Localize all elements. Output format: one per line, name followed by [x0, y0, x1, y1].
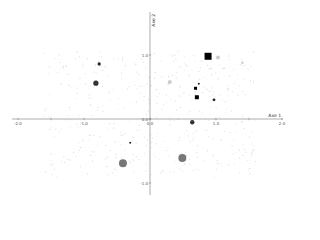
background-point — [79, 78, 80, 79]
medium-square-marker — [195, 95, 199, 99]
background-point — [210, 91, 211, 92]
background-point — [170, 54, 171, 55]
background-point — [163, 141, 164, 142]
background-point — [56, 177, 57, 178]
background-point — [52, 174, 53, 175]
background-point — [232, 91, 233, 92]
background-point — [152, 138, 153, 139]
background-point — [229, 60, 230, 61]
background-point — [115, 157, 116, 158]
background-point — [252, 153, 253, 154]
background-point — [136, 143, 137, 144]
background-point — [99, 136, 100, 137]
background-point — [228, 95, 229, 96]
background-point — [242, 116, 243, 117]
background-point — [244, 65, 245, 66]
background-point — [139, 159, 140, 160]
background-point — [184, 134, 185, 135]
background-point — [210, 114, 211, 115]
background-point — [233, 139, 234, 140]
background-point — [121, 158, 122, 159]
background-point — [92, 160, 93, 161]
background-point — [105, 66, 106, 67]
background-point — [125, 133, 126, 134]
background-point — [217, 163, 218, 164]
background-point — [195, 92, 196, 93]
large-square-marker — [205, 53, 212, 60]
background-point — [98, 61, 99, 62]
background-point — [133, 171, 134, 172]
background-point — [122, 56, 123, 57]
background-point — [118, 59, 119, 60]
background-point — [218, 117, 219, 118]
background-point — [54, 58, 55, 59]
background-point — [199, 111, 200, 112]
background-point — [168, 156, 169, 157]
background-point — [208, 136, 209, 137]
background-point — [189, 75, 190, 76]
background-point — [132, 103, 133, 104]
background-point — [85, 73, 86, 74]
background-point — [229, 75, 230, 76]
background-point — [89, 98, 90, 99]
background-point — [245, 94, 246, 95]
background-point — [141, 58, 142, 59]
background-point — [122, 60, 123, 61]
background-point — [77, 93, 78, 94]
background-point — [151, 85, 152, 86]
background-point — [168, 76, 169, 77]
background-point — [211, 68, 212, 69]
background-point — [143, 85, 144, 86]
data-points — [93, 53, 243, 167]
background-point — [148, 99, 149, 100]
background-point — [162, 170, 163, 171]
background-point — [204, 78, 205, 79]
background-point — [89, 135, 90, 136]
background-point — [181, 152, 182, 153]
background-point — [175, 100, 176, 101]
background-point — [57, 72, 58, 73]
background-point — [196, 168, 197, 169]
background-point — [63, 66, 64, 67]
background-point — [107, 166, 108, 167]
background-point — [156, 89, 157, 90]
background-point — [207, 65, 208, 66]
background-point — [215, 72, 216, 73]
background-point — [102, 86, 103, 87]
background-point — [251, 155, 252, 156]
background-point — [174, 172, 175, 173]
background-point — [207, 89, 208, 90]
background-point — [238, 149, 239, 150]
background-point — [189, 94, 190, 95]
background-point — [79, 115, 80, 116]
background-point — [140, 86, 141, 87]
background-point — [244, 128, 245, 129]
background-point — [113, 89, 114, 90]
background-point — [225, 101, 226, 102]
background-point — [208, 120, 209, 121]
background-point — [185, 63, 186, 64]
background-point — [242, 65, 243, 66]
background-point — [90, 155, 91, 156]
background-point — [184, 70, 185, 71]
background-point — [80, 166, 81, 167]
background-point — [162, 172, 163, 173]
background-point — [103, 111, 104, 112]
light-grey-marker-marker — [241, 61, 243, 63]
background-point — [210, 68, 211, 69]
background-point — [186, 64, 187, 65]
background-point — [78, 127, 79, 128]
background-point — [59, 54, 60, 55]
background-point — [229, 56, 230, 57]
background-point — [234, 164, 235, 165]
background-point — [50, 129, 51, 130]
background-point — [115, 142, 116, 143]
background-point — [113, 128, 114, 129]
background-point — [220, 95, 221, 96]
background-point — [129, 86, 130, 87]
background-point — [108, 175, 109, 176]
background-point — [237, 132, 238, 133]
background-point — [151, 147, 152, 148]
background-point — [52, 164, 53, 165]
background-point — [68, 115, 69, 116]
